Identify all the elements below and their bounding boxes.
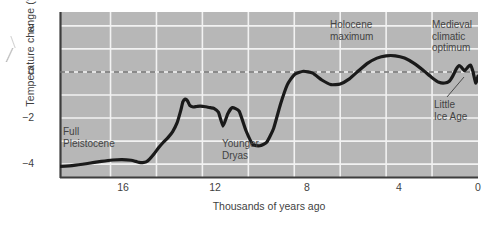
temperature-change-chart: Temperature change (°C) 2 0 −2 −4 16 12 … [0,0,500,228]
annotation-holocene-maximum: Holocene maximum [330,19,373,42]
annotation-younger-dryas: Younger Dryas [222,138,259,161]
plot-area [0,0,500,228]
annotation-medieval-optimum: Medieval climatic optimum [432,19,472,54]
annotation-little-ice-age: Little Ice Age [434,99,467,122]
annotation-full-pleistocene: Full Pleistocene [63,126,115,149]
